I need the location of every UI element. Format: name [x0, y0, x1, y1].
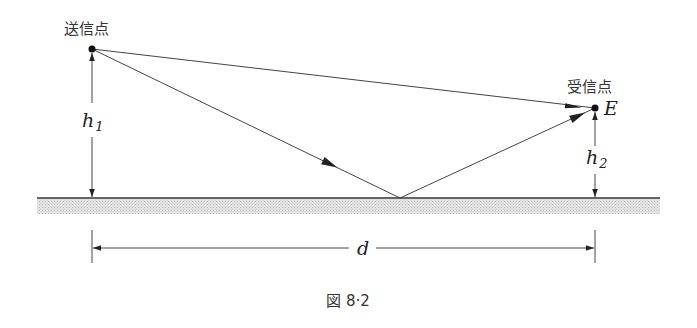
distance-label: d	[357, 237, 369, 259]
field-strength-label: E	[603, 97, 618, 119]
h1-dimension: h1	[82, 53, 104, 197]
direct-ray-arrow-icon	[565, 103, 582, 110]
incident-ray-arrow-icon	[321, 157, 339, 171]
h1-label: h1	[82, 109, 104, 134]
h2-dimension: h2	[586, 112, 608, 197]
incident-ray	[92, 49, 400, 198]
reflected-ray-arrow-icon	[569, 109, 587, 123]
direct-ray	[92, 49, 595, 110]
receiver-label: 受信点	[567, 78, 612, 96]
reflected-ray	[400, 108, 595, 198]
transmitter-point-icon	[89, 46, 96, 53]
h2-label: h2	[586, 146, 608, 171]
ground	[37, 198, 660, 214]
figure-caption: 図 8·2	[326, 292, 370, 310]
receiver-point-icon	[592, 105, 599, 112]
ground-shading	[37, 199, 660, 214]
two-ray-propagation-diagram: 送信点 受信点 E h1 h2 d 図 8·2	[0, 0, 697, 328]
transmitter-label: 送信点	[64, 20, 109, 38]
distance-dimension: d	[92, 230, 595, 263]
